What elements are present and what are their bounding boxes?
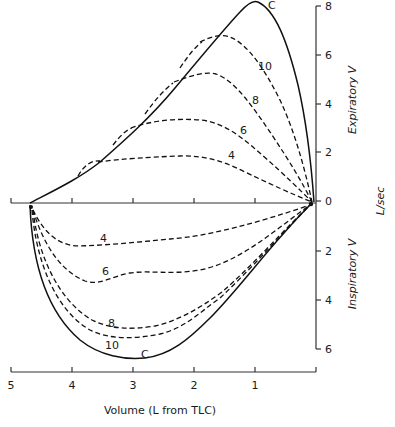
curve-8-inspiratory	[33, 205, 310, 328]
flow-volume-chart: 5 4 3 2 1 Volume (L from TLC) 8 6 4 2 0 …	[0, 0, 395, 427]
volume-tick-labels: 5 4 3 2 1	[8, 379, 259, 392]
curve-c-expiratory	[30, 1, 314, 203]
rv-point-marker	[29, 205, 33, 209]
exp-tick-4: 4	[325, 98, 332, 111]
curve-6-expiratory	[131, 119, 312, 202]
insp-tick-4: 4	[325, 294, 332, 307]
x-tick-4: 4	[69, 379, 76, 392]
insp-tick-6: 6	[325, 343, 332, 356]
inspiratory-curves	[30, 205, 310, 358]
exp-tick-0: 0	[325, 195, 332, 208]
label-c-inspiratory: C	[141, 348, 149, 361]
curve-labels: C 10 8 6 4 4 6 8 10 C	[100, 0, 276, 361]
flow-tick-labels: 8 6 4 2 0 2 4 6	[325, 0, 332, 356]
flow-units-label: L/sec	[374, 187, 387, 215]
expiratory-dashed-curves	[78, 36, 312, 202]
expiratory-curves	[30, 1, 314, 203]
loop-10	[180, 42, 202, 68]
zero-flow-axis	[11, 198, 316, 203]
label-8-inspiratory: 8	[108, 317, 115, 330]
x-axis-title: Volume (L from TLC)	[104, 404, 216, 417]
x-tick-2: 2	[191, 379, 198, 392]
loop-8	[145, 83, 173, 114]
curve-8-expiratory	[174, 73, 312, 202]
volume-axis	[11, 367, 316, 372]
curve-10-inspiratory	[32, 205, 310, 338]
exp-tick-6: 6	[325, 49, 332, 62]
exp-tick-8: 8	[325, 0, 332, 13]
curve-6-inspiratory	[33, 205, 310, 282]
flow-axis	[316, 6, 321, 349]
x-tick-5: 5	[8, 379, 15, 392]
exp-tick-2: 2	[325, 146, 332, 159]
curve-c-inspiratory	[30, 205, 310, 358]
label-10-inspiratory: 10	[105, 339, 119, 352]
insp-tick-2: 2	[325, 245, 332, 258]
curve-4-inspiratory	[33, 205, 310, 246]
label-c-expiratory: C	[268, 0, 276, 12]
x-tick-3: 3	[130, 379, 137, 392]
label-8-expiratory: 8	[252, 94, 259, 107]
label-4-inspiratory: 4	[100, 232, 107, 245]
label-4-expiratory: 4	[228, 149, 235, 162]
loop-4	[78, 161, 100, 176]
inspiratory-dashed-curves	[32, 205, 310, 338]
label-6-expiratory: 6	[240, 124, 247, 137]
curve-4-expiratory	[98, 156, 312, 202]
label-6-inspiratory: 6	[102, 265, 109, 278]
tlc-point-marker	[309, 202, 313, 206]
label-10-expiratory: 10	[258, 60, 272, 73]
expiratory-flow-label: Expiratory V	[346, 65, 359, 134]
inspiratory-flow-label: Inspiratory V	[346, 237, 359, 309]
x-tick-1: 1	[252, 379, 259, 392]
